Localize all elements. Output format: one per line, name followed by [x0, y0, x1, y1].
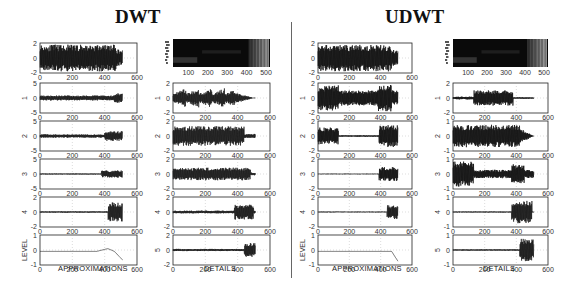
- svg-text:600: 600: [131, 74, 143, 81]
- svg-text:2: 2: [434, 134, 441, 138]
- svg-text:0: 0: [451, 114, 455, 121]
- svg-text:-5: -5: [31, 185, 37, 192]
- svg-text:-2: -2: [164, 261, 170, 268]
- plot-udwt-approx-1: 20-202004006001: [299, 80, 418, 121]
- plot-udwt-detail-2: 10-102004006002: [434, 118, 554, 159]
- svg-text:1: 1: [21, 96, 28, 100]
- svg-text:200: 200: [343, 74, 355, 81]
- svg-text:LEVEL: LEVEL: [299, 239, 306, 261]
- svg-text:400: 400: [232, 228, 244, 235]
- svg-text:-1: -1: [444, 185, 450, 192]
- svg-text:0: 0: [171, 152, 175, 159]
- svg-text:200: 200: [481, 69, 493, 76]
- svg-text:0: 0: [311, 55, 315, 62]
- udwt-approximations-label: APPROXIMATIONS: [332, 264, 402, 273]
- plot-udwt-detail-1: 20-202004006001: [434, 80, 554, 121]
- svg-text:600: 600: [542, 228, 554, 235]
- svg-text:400: 400: [99, 152, 111, 159]
- svg-text:1: 1: [33, 232, 37, 239]
- plot-udwt-detail-3: 10-102004006003: [434, 156, 554, 197]
- svg-text:0: 0: [311, 247, 315, 254]
- svg-text:-2: -2: [309, 109, 315, 116]
- svg-text:200: 200: [66, 74, 78, 81]
- svg-text:-1: -1: [309, 261, 315, 268]
- svg-text:600: 600: [406, 228, 418, 235]
- plot-dwt-detail-0: 100200300400500: [165, 39, 272, 76]
- svg-text:2: 2: [21, 134, 28, 138]
- svg-text:0: 0: [166, 133, 170, 140]
- svg-text:0: 0: [446, 209, 450, 216]
- svg-text:-2: -2: [31, 223, 37, 230]
- svg-text:0: 0: [38, 114, 42, 121]
- svg-text:600: 600: [264, 114, 276, 121]
- udwt-details-label: DETAILS: [483, 264, 515, 273]
- svg-text:0: 0: [33, 55, 37, 62]
- svg-text:4: 4: [434, 210, 441, 214]
- svg-text:600: 600: [131, 190, 143, 197]
- svg-text:400: 400: [232, 190, 244, 197]
- svg-text:4: 4: [154, 210, 161, 214]
- svg-text:-2: -2: [164, 109, 170, 116]
- svg-text:400: 400: [99, 190, 111, 197]
- svg-text:600: 600: [542, 152, 554, 159]
- svg-text:0: 0: [316, 74, 320, 81]
- svg-text:300: 300: [500, 69, 512, 76]
- plot-dwt-approx-1: 50-502004006001: [21, 80, 143, 121]
- svg-text:3: 3: [434, 172, 441, 176]
- svg-text:600: 600: [264, 190, 276, 197]
- svg-text:0: 0: [446, 133, 450, 140]
- svg-text:0: 0: [311, 171, 315, 178]
- svg-text:200: 200: [479, 190, 491, 197]
- svg-text:2: 2: [166, 156, 170, 163]
- plot-udwt-detail-0: 100200300400500: [445, 39, 550, 76]
- svg-text:2: 2: [166, 194, 170, 201]
- svg-text:400: 400: [99, 74, 111, 81]
- svg-text:0: 0: [316, 190, 320, 197]
- svg-text:0: 0: [316, 228, 320, 235]
- svg-text:600: 600: [406, 266, 418, 273]
- svg-text:-2: -2: [31, 69, 37, 76]
- svg-text:600: 600: [542, 114, 554, 121]
- svg-text:0: 0: [166, 95, 170, 102]
- svg-text:-2: -2: [164, 223, 170, 230]
- svg-text:2: 2: [311, 80, 315, 87]
- svg-text:0: 0: [311, 209, 315, 216]
- svg-text:400: 400: [510, 190, 522, 197]
- svg-text:200: 200: [66, 228, 78, 235]
- svg-text:600: 600: [542, 190, 554, 197]
- svg-text:400: 400: [510, 114, 522, 121]
- svg-text:0: 0: [316, 266, 320, 273]
- svg-text:2: 2: [33, 194, 37, 201]
- svg-text:-1: -1: [31, 261, 37, 268]
- plot-dwt-detail-4: 20-202004006004: [154, 194, 276, 235]
- svg-text:600: 600: [406, 152, 418, 159]
- svg-text:200: 200: [66, 190, 78, 197]
- plot-dwt-detail-1: 20-202004006001: [154, 80, 276, 121]
- svg-text:1: 1: [446, 194, 450, 201]
- svg-text:400: 400: [99, 228, 111, 235]
- svg-text:-5: -5: [31, 109, 37, 116]
- svg-text:0: 0: [38, 152, 42, 159]
- svg-text:5: 5: [33, 80, 37, 87]
- svg-text:3: 3: [21, 172, 28, 176]
- svg-text:200: 200: [199, 152, 211, 159]
- svg-text:0: 0: [33, 209, 37, 216]
- plot-udwt-detail-4: 10-102004006004: [434, 194, 554, 235]
- svg-text:-2: -2: [444, 109, 450, 116]
- svg-text:5: 5: [154, 248, 161, 252]
- svg-text:200: 200: [343, 190, 355, 197]
- svg-text:0: 0: [166, 171, 170, 178]
- svg-text:200: 200: [479, 152, 491, 159]
- svg-text:1: 1: [154, 96, 161, 100]
- svg-text:100: 100: [183, 69, 195, 76]
- svg-text:1: 1: [311, 232, 315, 239]
- svg-text:-2: -2: [309, 69, 315, 76]
- svg-text:0: 0: [316, 152, 320, 159]
- svg-text:300: 300: [221, 69, 233, 76]
- plot-udwt-approx-2: 20-202004006002: [299, 118, 418, 159]
- svg-text:0: 0: [446, 171, 450, 178]
- svg-text:0: 0: [166, 247, 170, 254]
- svg-text:0: 0: [446, 95, 450, 102]
- svg-text:200: 200: [479, 114, 491, 121]
- svg-text:0: 0: [33, 247, 37, 254]
